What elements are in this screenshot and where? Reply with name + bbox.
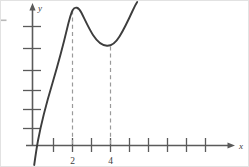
x-axis-label: x [238,141,243,151]
y-axis-label: y [37,3,42,13]
x-tick-label-2: 2 [70,156,75,166]
y-axis-arrowhead [29,3,35,11]
graph-figure: y x 2 4 [0,0,249,167]
x-tick-label-4: 4 [108,156,113,166]
function-curve [34,2,137,165]
x-axis: x [26,138,243,152]
coordinate-plot: y x 2 4 [0,0,249,167]
y-axis: y [23,3,42,146]
page-edge-mark [1,20,7,22]
x-axis-arrowhead [228,142,236,148]
